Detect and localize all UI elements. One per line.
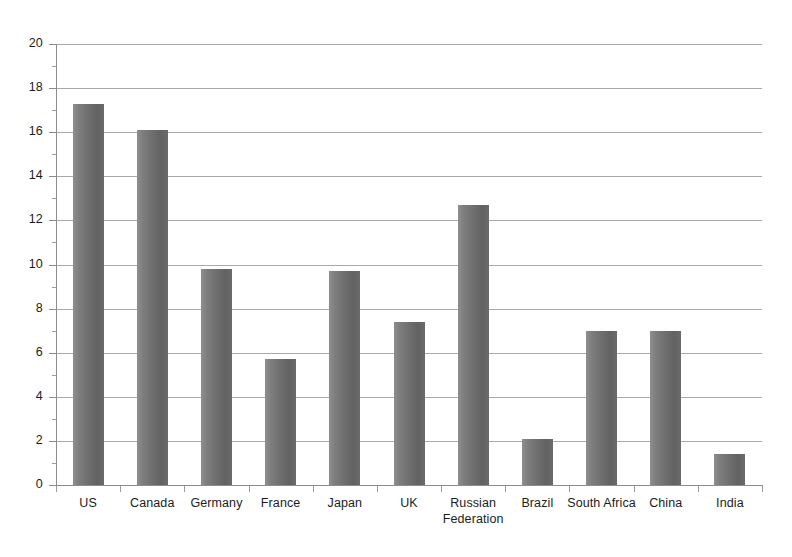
y-axis-tick	[49, 88, 56, 89]
bar-chart: 02468101214161820 USCanadaGermanyFranceJ…	[0, 0, 792, 557]
y-axis-tick	[49, 265, 56, 266]
y-axis-tick-label: 16	[0, 124, 43, 138]
y-axis-tick-label: 0	[0, 477, 43, 491]
bar	[329, 271, 360, 485]
x-axis-tick	[762, 486, 763, 492]
y-axis-tick	[49, 309, 56, 310]
bar	[265, 359, 296, 485]
x-axis-tick	[569, 486, 570, 492]
y-axis-tick	[49, 132, 56, 133]
y-axis-tick-label: 10	[0, 257, 43, 271]
y-axis-tick-label: 6	[0, 345, 43, 359]
bar	[714, 454, 745, 485]
x-axis-tick	[634, 486, 635, 492]
x-axis-tick	[313, 486, 314, 492]
y-axis-tick	[49, 220, 56, 221]
y-axis-tick-label: 2	[0, 433, 43, 447]
bar-series	[56, 44, 762, 485]
x-axis-tick	[377, 486, 378, 492]
bar	[522, 439, 553, 485]
x-axis-tick	[120, 486, 121, 492]
bar	[586, 331, 617, 485]
x-axis-tick	[441, 486, 442, 492]
y-axis-tick-label: 4	[0, 389, 43, 403]
y-axis-tick	[49, 485, 56, 486]
x-axis-tick	[505, 486, 506, 492]
bar	[650, 331, 681, 485]
y-axis-tick	[49, 44, 56, 45]
x-axis-tick	[249, 486, 250, 492]
x-axis-tick-label: India	[685, 495, 775, 511]
bar	[137, 130, 168, 485]
y-axis-tick	[49, 441, 56, 442]
y-axis-tick-label: 8	[0, 301, 43, 315]
y-axis-tick	[49, 397, 56, 398]
x-axis-tick	[698, 486, 699, 492]
y-axis-tick-label: 18	[0, 80, 43, 94]
bar	[458, 205, 489, 485]
bar	[201, 269, 232, 485]
x-axis-tick	[56, 486, 57, 492]
y-axis-tick-label: 20	[0, 36, 43, 50]
y-axis-tick-label: 14	[0, 168, 43, 182]
bar	[73, 104, 104, 485]
bar	[394, 322, 425, 485]
y-axis-tick	[49, 176, 56, 177]
x-axis-tick	[184, 486, 185, 492]
y-axis-tick-label: 12	[0, 212, 43, 226]
y-axis-tick	[49, 353, 56, 354]
x-axis-line	[56, 485, 763, 486]
